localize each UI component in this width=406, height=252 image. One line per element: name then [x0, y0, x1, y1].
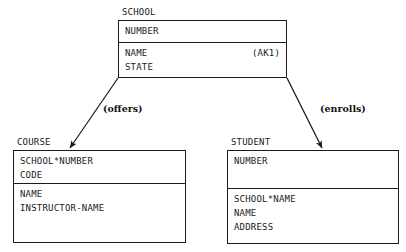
attribute-name: NUMBER [125, 24, 159, 38]
relationship-label-enrolls: (enrolls) [320, 103, 366, 115]
attribute-name: NAME [20, 187, 42, 201]
attribute-row: ADDRESS [234, 220, 392, 234]
key-compartment-course: SCHOOL*NUMBER CODE [14, 151, 185, 184]
attribute-row: CODE [20, 168, 179, 182]
entity-title-student: STUDENT [231, 136, 270, 148]
entity-title-course: COURSE [17, 136, 51, 148]
entity-course[interactable]: COURSE SCHOOL*NUMBER CODE NAME INSTRUC [13, 150, 186, 243]
attribute-name: INSTRUCTOR-NAME [20, 201, 104, 215]
attribute-name: ADDRESS [234, 220, 273, 234]
attribute-row: NAME [20, 187, 179, 201]
attribute-row: NAME [234, 206, 392, 220]
attribute-note: (AK1) [252, 46, 280, 60]
entity-box-school: NUMBER NAME (AK1) STATE [118, 20, 287, 78]
entity-box-course: SCHOOL*NUMBER CODE NAME INSTRUCTOR-NAME [13, 150, 186, 243]
attribute-name: NAME [125, 46, 147, 60]
key-compartment-student: NUMBER [228, 151, 398, 189]
attribute-name: SCHOOL*NUMBER [20, 154, 93, 168]
attribute-row: NUMBER [125, 24, 280, 38]
attribute-row: STATE [125, 60, 280, 74]
entity-title-school: SCHOOL [122, 6, 156, 18]
attribute-row: SCHOOL*NUMBER [20, 154, 179, 168]
attribute-name: CODE [20, 168, 42, 182]
attribute-name: STATE [125, 60, 153, 74]
attribute-row: INSTRUCTOR-NAME [20, 201, 179, 215]
attribute-row: NUMBER [234, 154, 392, 168]
attribute-compartment-school: NAME (AK1) STATE [119, 43, 286, 76]
relationship-line-enrolls [287, 78, 322, 148]
entity-school[interactable]: SCHOOL NUMBER NAME (AK1) STATE [118, 20, 287, 78]
attribute-compartment-course: NAME INSTRUCTOR-NAME [14, 184, 185, 217]
attribute-name: SCHOOL*NAME [234, 192, 296, 206]
key-compartment-school: NUMBER [119, 21, 286, 43]
entity-box-student: NUMBER SCHOOL*NAME NAME ADDRESS [227, 150, 399, 244]
relationship-label-offers: (offers) [103, 103, 143, 115]
attribute-name: NUMBER [234, 154, 268, 168]
attribute-row: SCHOOL*NAME [234, 192, 392, 206]
attribute-row: NAME (AK1) [125, 46, 280, 60]
attribute-name: NAME [234, 206, 256, 220]
entity-student[interactable]: STUDENT NUMBER SCHOOL*NAME NAME ADDRES [227, 150, 399, 244]
attribute-compartment-student: SCHOOL*NAME NAME ADDRESS [228, 189, 398, 236]
er-diagram-canvas: SCHOOL NUMBER NAME (AK1) STATE C [0, 0, 406, 252]
